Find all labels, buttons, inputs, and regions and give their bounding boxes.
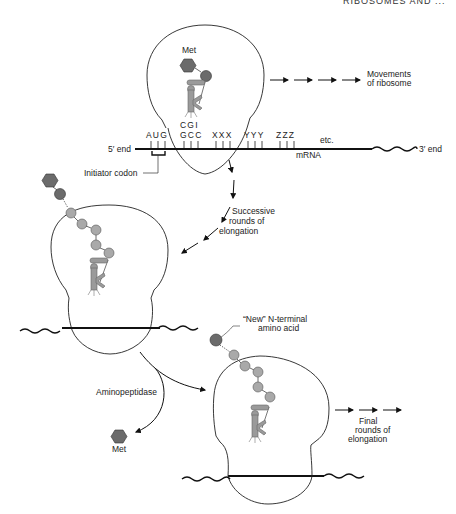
mrna-wavy-right [324, 474, 364, 478]
trna-icon [88, 258, 108, 296]
met-hexagon [180, 59, 196, 72]
etc-label: etc. [320, 135, 334, 145]
new-n-terminal-amino-acid [210, 334, 222, 346]
panel-elongation [20, 174, 198, 354]
codon-xxx: XXX [212, 130, 233, 140]
released-met-hexagon [111, 430, 127, 443]
trna-icon [249, 405, 269, 443]
mrna-label: mRNA [296, 150, 321, 160]
released-met-label: Met [112, 444, 127, 454]
amino-acid [55, 189, 66, 200]
three-prime-end-label: 3′ end [419, 144, 442, 154]
successive-label-line2: rounds of [229, 216, 265, 226]
mrna-wavy-right [158, 326, 198, 330]
anticodon-cgi: CGI [180, 120, 199, 130]
small-subunit [220, 442, 312, 504]
small-subunit-lower [72, 330, 150, 354]
mrna-wavy-tail [372, 147, 417, 151]
codon-zzz: ZZZ [276, 130, 295, 140]
elongation-arrows [182, 160, 234, 253]
to-panel3-arrow [140, 352, 205, 390]
successive-label-line1: Successive [232, 206, 275, 216]
codon-aug: AUG [146, 130, 168, 140]
panel-final: “New” N-terminal amino acid [182, 314, 401, 504]
met-hexagon [42, 174, 58, 187]
mrna-wavy-left [20, 329, 60, 333]
mrna-wavy-left [182, 477, 230, 481]
aminopeptidase-arrow [136, 368, 164, 432]
codon-gcc: GCC [180, 130, 203, 140]
five-prime-end-label: 5′ end [108, 144, 131, 154]
met-label: Met [182, 45, 197, 55]
running-title: RIBOSOMES AND ... [343, 0, 446, 6]
initiator-bracket [152, 151, 165, 155]
final-label-line3: elongation [348, 434, 388, 444]
new-terminal-label-line2: amino acid [258, 323, 299, 333]
trna-icon [185, 80, 205, 118]
peptide-bond [195, 68, 201, 72]
codon-yyy: YYY [244, 130, 265, 140]
small-subunit [68, 298, 152, 330]
translation-initiation-diagram: RIBOSOMES AND ... Met CGI AUG GCC XXX YY… [0, 0, 456, 514]
initiator-codon-label: Initiator codon [84, 168, 138, 178]
movements-label-line2: of ribosome [367, 78, 412, 88]
aminopeptidase-label: Aminopeptidase [96, 387, 157, 397]
panel-initiation: Met CGI AUG GCC XXX YYY ZZZ etc. [84, 25, 442, 178]
successive-label-line3: elongation [219, 226, 259, 236]
